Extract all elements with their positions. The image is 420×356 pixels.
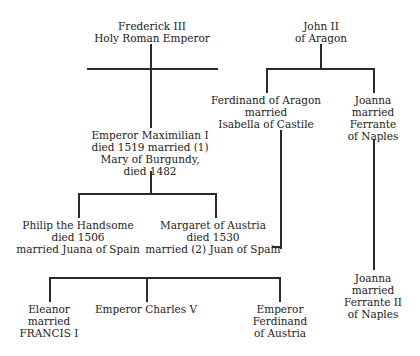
node-text: married (20, 315, 79, 327)
edge-john-siblings-bar (267, 68, 374, 70)
edge-joanna-joanna-ii (373, 139, 375, 270)
node-text: Isabella of Castile (211, 118, 321, 130)
edge-maximilian-siblings-bar (78, 193, 216, 195)
node-text: Emperor Charles V (95, 303, 197, 315)
edge-philip-eleanor (49, 277, 51, 302)
node-joanna-ferrante-ii: Joanna married Ferrante II of Naples (344, 272, 402, 320)
node-text: Frederick III (94, 20, 210, 32)
node-frederick-iii: Frederick III Holy Roman Emperor (94, 20, 210, 44)
edge-frederick-maximilian (150, 44, 152, 128)
node-text: Eleanor (20, 303, 79, 315)
node-text: Ferdinand (253, 315, 308, 327)
edge-john-down (320, 44, 322, 69)
node-text: Emperor (253, 303, 308, 315)
node-text: Mary of Burgundy, (91, 153, 208, 165)
node-text: of Naples (344, 308, 402, 320)
edge-juan-of-spain-link (272, 246, 281, 248)
node-text: Margaret of Austria (145, 219, 280, 231)
node-text: Philip the Handsome (16, 219, 139, 231)
node-john-ii: John II of Aragon (295, 20, 347, 44)
node-eleanor: Eleanor married FRANCIS I (20, 303, 79, 339)
node-text: Ferdinand of Aragon (211, 94, 321, 106)
edge-john-ferdinand (266, 68, 268, 93)
node-text: died 1506 (16, 231, 139, 243)
node-text: of Austria (253, 327, 308, 339)
edge-maximilian-philip (78, 193, 80, 218)
node-philip-the-handsome: Philip the Handsome died 1506 married Ju… (16, 219, 139, 255)
node-text: married Juana of Spain (16, 243, 139, 255)
node-maximilian-i: Emperor Maximilian I died 1519 married (… (91, 129, 208, 177)
node-text: Joanna (344, 272, 402, 284)
node-text: Emperor Maximilian I (91, 129, 208, 141)
node-text: married (211, 106, 321, 118)
node-margaret-of-austria: Margaret of Austria died 1530 married (2… (145, 219, 280, 255)
node-text: Ferrante II (344, 296, 402, 308)
node-text: died 1519 married (1) (91, 141, 208, 153)
node-text: married (2) Juan of Spain (145, 243, 280, 255)
node-text: married (348, 106, 399, 118)
node-text: of Aragon (295, 32, 347, 44)
edge-philip-ferdinand-austria (279, 277, 281, 302)
edge-philip-children-bar (49, 277, 280, 279)
node-ferdinand-of-austria: Emperor Ferdinand of Austria (253, 303, 308, 339)
node-text: John II (295, 20, 347, 32)
edge-maximilian-down (150, 171, 152, 194)
node-ferdinand-of-aragon: Ferdinand of Aragon married Isabella of … (211, 94, 321, 130)
node-text: died 1530 (145, 231, 280, 243)
node-text: Holy Roman Emperor (94, 32, 210, 44)
marriage-bar-frederick (87, 68, 218, 70)
node-text: Ferrante (348, 118, 399, 130)
edge-john-joanna (373, 68, 375, 93)
edge-philip-charles (146, 277, 148, 302)
node-charles-v: Emperor Charles V (95, 303, 197, 315)
node-text: FRANCIS I (20, 327, 79, 339)
edge-ferdinand-juan (280, 130, 282, 249)
node-joanna-ferrante: Joanna married Ferrante of Naples (348, 94, 399, 142)
node-text: Joanna (348, 94, 399, 106)
edge-maximilian-margaret (215, 193, 217, 218)
node-text: married (344, 284, 402, 296)
